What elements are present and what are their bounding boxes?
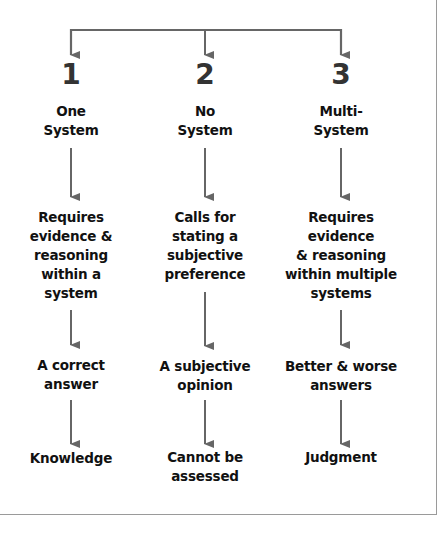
column-2-number: 2	[175, 60, 235, 90]
column-3-number: 3	[311, 60, 371, 90]
column-1-outcome: A correct answer	[6, 356, 136, 394]
column-3-outcome: Better & worse answers	[276, 357, 406, 395]
column-3-requirement: Requires evidence & reasoning within mul…	[276, 208, 406, 303]
column-1-requirement: Requires evidence & reasoning within a s…	[6, 208, 136, 303]
column-1-result: Knowledge	[6, 449, 136, 468]
column-2-result: Cannot be assessed	[140, 448, 270, 486]
column-2-outcome: A subjective opinion	[140, 357, 270, 395]
column-2-title: No System	[140, 102, 270, 140]
column-3-result: Judgment	[276, 448, 406, 467]
column-2-requirement: Calls for stating a subjective preferenc…	[140, 208, 270, 284]
column-3-title: Multi- System	[276, 102, 406, 140]
column-1-number: 1	[41, 60, 101, 90]
column-1-title: One System	[6, 102, 136, 140]
